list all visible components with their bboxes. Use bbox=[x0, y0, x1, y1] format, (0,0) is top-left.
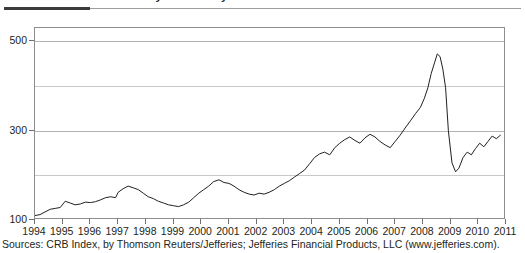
x-axis-label-2011: 2011 bbox=[494, 225, 517, 237]
x-axis-label-1996: 1996 bbox=[78, 225, 101, 237]
x-axis-label-2000: 2000 bbox=[189, 225, 212, 237]
x-axis-tick-1995 bbox=[62, 219, 63, 224]
y-axis-label-500: 500 bbox=[0, 34, 27, 46]
x-axis-tick-2009 bbox=[450, 219, 451, 224]
x-axis-label-2002: 2002 bbox=[244, 225, 267, 237]
x-axis-label-2008: 2008 bbox=[410, 225, 433, 237]
x-axis-label-1994: 1994 bbox=[22, 225, 45, 237]
figure-title-text: FIGURE 11.3Price index by commodity. bbox=[4, 0, 230, 2]
y-axis-tick-300 bbox=[29, 130, 34, 131]
y-axis: 100300500 bbox=[0, 0, 34, 253]
x-axis-tick-2004 bbox=[311, 219, 312, 224]
y-axis-tick-500 bbox=[29, 40, 34, 41]
x-axis-label-2007: 2007 bbox=[383, 225, 406, 237]
x-axis-label-2010: 2010 bbox=[466, 225, 489, 237]
x-axis-label-1999: 1999 bbox=[161, 225, 184, 237]
x-axis-tick-2008 bbox=[422, 219, 423, 224]
x-axis-tick-2010 bbox=[477, 219, 478, 224]
chart-plot-area bbox=[34, 27, 505, 219]
x-axis-tick-2002 bbox=[256, 219, 257, 224]
x-axis-tick-1994 bbox=[34, 219, 35, 224]
figure-caption: Price index by commodity. bbox=[83, 0, 230, 2]
x-axis-tick-2007 bbox=[394, 219, 395, 224]
x-axis-tick-2001 bbox=[228, 219, 229, 224]
x-axis-label-2005: 2005 bbox=[327, 225, 350, 237]
x-axis-tick-2006 bbox=[367, 219, 368, 224]
x-axis-tick-1997 bbox=[117, 219, 118, 224]
y-axis-label-300: 300 bbox=[0, 124, 27, 136]
x-axis-tick-1998 bbox=[145, 219, 146, 224]
x-axis-label-2003: 2003 bbox=[272, 225, 295, 237]
x-axis-tick-2003 bbox=[283, 219, 284, 224]
x-axis-label-1995: 1995 bbox=[50, 225, 73, 237]
x-axis-tick-2005 bbox=[339, 219, 340, 224]
x-axis-tick-1999 bbox=[173, 219, 174, 224]
title-rule-light bbox=[90, 8, 521, 9]
x-axis-label-1997: 1997 bbox=[105, 225, 128, 237]
x-axis-label-2004: 2004 bbox=[299, 225, 322, 237]
x-axis-label-1998: 1998 bbox=[133, 225, 156, 237]
x-axis-label-2009: 2009 bbox=[438, 225, 461, 237]
chart-series-line bbox=[35, 28, 506, 220]
x-axis-label-2006: 2006 bbox=[355, 225, 378, 237]
x-axis-tick-1996 bbox=[89, 219, 90, 224]
source-note: Sources: CRB Index, by Thomson Reuters/J… bbox=[2, 238, 500, 250]
x-axis-label-2001: 2001 bbox=[216, 225, 239, 237]
x-axis-tick-2000 bbox=[200, 219, 201, 224]
x-axis-tick-2011 bbox=[505, 219, 506, 224]
